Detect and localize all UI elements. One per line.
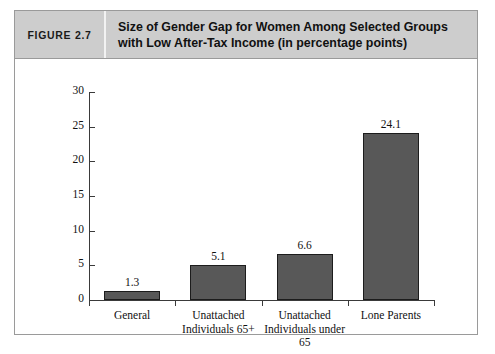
x-axis-tick [262,300,263,306]
x-axis-category-label-line: Unattached [260,309,350,323]
x-axis-category-label: Lone Parents [346,309,436,323]
x-axis-category-label: UnattachedIndividuals 65+ [173,309,263,336]
x-axis-category-label-line: General [87,309,177,323]
y-axis-tick-mark [89,196,95,197]
y-axis-tick: 5 [89,265,95,266]
x-axis-category-label-line: 65 [260,336,350,350]
bar-value-label: 1.3 [102,276,162,288]
x-axis-tick [89,300,90,306]
bar-value-label: 5.1 [188,250,248,262]
x-axis-category-label-line: Individuals under [260,323,350,337]
y-axis-tick: 10 [89,231,95,232]
figure-header: FIGURE 2.7 Size of Gender Gap for Women … [15,11,477,59]
y-axis-tick-mark [89,265,95,266]
y-axis-tick-label: 15 [73,188,85,200]
figure-number-label: FIGURE 2.7 [27,29,91,41]
figure-title-line-1: Size of Gender Gap for Women Among Selec… [118,19,469,35]
y-axis-tick-label: 20 [73,153,85,165]
x-axis-tick [348,300,349,306]
y-axis-tick: 20 [89,161,95,162]
y-axis-tick-label: 5 [78,257,84,269]
bar[interactable] [363,133,419,300]
figure-frame: FIGURE 2.7 Size of Gender Gap for Women … [14,10,478,335]
x-axis-tick [434,300,435,306]
figure-title-line-2: with Low After-Tax Income (in percentage… [118,35,469,51]
x-axis-category-label: General [87,309,177,323]
y-axis-tick-label: 0 [78,292,84,304]
y-axis-tick: 25 [89,127,95,128]
bar-chart: 051015202530 1.35.16.624.1 GeneralUnatta… [15,59,477,334]
bar[interactable] [277,254,333,300]
bar[interactable] [190,265,246,300]
y-axis-tick-mark [89,127,95,128]
y-axis-tick: 15 [89,196,95,197]
y-axis-line [89,92,90,302]
y-axis-tick: 30 [89,92,95,93]
figure-title-cell: Size of Gender Gap for Women Among Selec… [106,11,477,58]
y-axis-tick-label: 30 [73,84,85,96]
bar-value-label: 6.6 [275,239,335,251]
y-axis-tick-mark [89,231,95,232]
y-axis-tick-label: 25 [73,119,85,131]
figure-number-cell: FIGURE 2.7 [15,11,106,58]
x-axis-tick [175,300,176,306]
x-axis-category-label-line: Lone Parents [346,309,436,323]
bar[interactable] [104,291,160,300]
bar-value-label: 24.1 [361,118,421,130]
x-axis-category-label-line: Unattached [173,309,263,323]
y-axis-tick-mark [89,92,95,93]
y-axis-tick-label: 10 [73,223,85,235]
y-axis-tick-mark [89,161,95,162]
x-axis-category-label: UnattachedIndividuals under65 [260,309,350,350]
x-axis-category-label-line: Individuals 65+ [173,323,263,337]
